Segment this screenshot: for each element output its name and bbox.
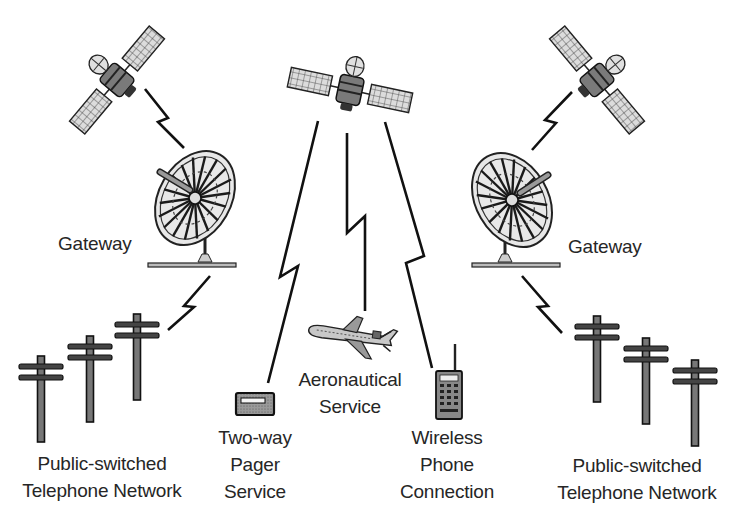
satellite-right-icon	[541, 11, 663, 141]
wireless-phone-label-line-3: Connection	[392, 478, 502, 505]
pager-label-line-3: Service	[208, 478, 302, 505]
mobile-phone-icon	[436, 344, 462, 419]
link-gateway-pstn-left	[168, 276, 210, 330]
pager-label-line-1: Two-way	[208, 424, 302, 451]
pstn-right-label-line-2: Telephone Network	[544, 479, 730, 506]
pstn-right-label: Public-switched Telephone Network	[544, 452, 730, 506]
gateway-left-label: Gateway	[58, 230, 132, 257]
pstn-right-poles-icon	[575, 316, 717, 446]
airplane-icon	[306, 310, 399, 362]
satellite-left-icon	[51, 11, 173, 141]
pstn-left-poles-icon	[19, 314, 159, 442]
pstn-left-label-line-1: Public-switched	[12, 450, 192, 477]
link-gateway-pstn-right	[522, 276, 562, 333]
wireless-phone-label: Wireless Phone Connection	[392, 424, 502, 505]
gateway-right-label: Gateway	[568, 233, 642, 260]
pstn-left-label-line-2: Telephone Network	[12, 477, 192, 504]
pager-icon	[236, 393, 274, 415]
link-sat-pager	[268, 121, 318, 383]
gateway-left-dish-icon	[139, 137, 251, 267]
satellite-center-icon	[285, 44, 418, 124]
aeronautical-label: Aeronautical Service	[290, 366, 410, 420]
pager-label: Two-way Pager Service	[208, 424, 302, 505]
pstn-right-label-line-1: Public-switched	[544, 452, 730, 479]
wireless-phone-label-line-2: Phone	[392, 451, 502, 478]
aeronautical-label-line-2: Service	[290, 393, 410, 420]
gateway-right-dish-icon	[456, 139, 568, 267]
pstn-left-label: Public-switched Telephone Network	[12, 450, 192, 504]
wireless-phone-label-line-1: Wireless	[392, 424, 502, 451]
pager-label-line-2: Pager	[208, 451, 302, 478]
link-satright-gateway	[532, 92, 572, 150]
link-satleft-gateway	[145, 89, 184, 148]
link-sat-airplane	[347, 133, 365, 311]
aeronautical-label-line-1: Aeronautical	[290, 366, 410, 393]
